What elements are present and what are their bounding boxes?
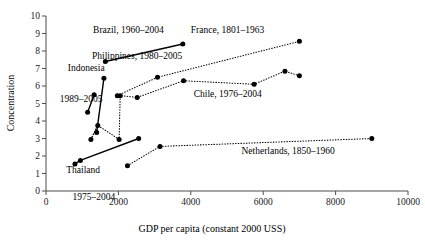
data-point xyxy=(78,158,83,163)
x-axis-title: GDP per capita (constant 2000 USS) xyxy=(138,223,285,235)
data-point xyxy=(88,137,93,142)
series-label: Chile, 1976–2004 xyxy=(194,89,262,99)
chart-figure: 0123456789100200040006000800010000 Brazi… xyxy=(0,0,425,240)
data-point xyxy=(135,95,140,100)
y-tick-label: 5 xyxy=(35,99,40,109)
data-point xyxy=(158,144,163,149)
data-point xyxy=(118,93,123,98)
y-tick-label: 3 xyxy=(35,134,40,144)
x-tick-label: 4000 xyxy=(181,197,200,207)
x-tick-label: 0 xyxy=(44,197,49,207)
data-point xyxy=(136,136,141,141)
y-tick-label: 2 xyxy=(35,151,40,161)
y-tick-label: 6 xyxy=(35,81,40,91)
data-point xyxy=(155,75,160,80)
data-point xyxy=(181,78,186,83)
series-label: Thailand xyxy=(66,165,100,175)
data-point xyxy=(282,69,287,74)
y-tick-label: 1 xyxy=(35,169,40,179)
series-chile-1976-2004 xyxy=(88,69,302,142)
data-point xyxy=(297,73,302,78)
y-tick-label: 7 xyxy=(35,64,40,74)
x-tick-label: 8000 xyxy=(326,197,345,207)
thailand-years: 1975–2004 xyxy=(72,192,115,202)
data-point xyxy=(95,123,100,128)
series-label: Netherlands, 1850–1960 xyxy=(241,146,335,156)
data-point xyxy=(117,137,122,142)
data-point xyxy=(180,42,185,47)
series-label: Brazil, 1960–2004 xyxy=(93,25,164,35)
scatter-plot: 0123456789100200040006000800010000 Brazi… xyxy=(0,0,425,240)
indonesia-years: 1989–2005 xyxy=(60,94,103,104)
series-labels: Brazil, 1960–2004France, 1801–1963Philip… xyxy=(66,25,335,175)
series-label: Indonesia xyxy=(68,63,106,73)
y-tick-label: 4 xyxy=(35,116,40,126)
data-point xyxy=(125,163,130,168)
data-point xyxy=(252,82,257,87)
series-line xyxy=(75,139,139,164)
data-point xyxy=(85,110,90,115)
y-tick-label: 0 xyxy=(35,186,40,196)
x-tick-label: 6000 xyxy=(254,197,273,207)
series-label: Philippines, 1980–2005 xyxy=(92,51,183,61)
y-tick-label: 8 xyxy=(35,46,40,56)
data-point xyxy=(369,136,374,141)
series-line xyxy=(117,41,299,95)
y-axis-title: Concentration xyxy=(5,75,16,132)
data-point xyxy=(297,39,302,44)
series-line xyxy=(91,71,300,139)
series-thailand-1975-2004 xyxy=(72,136,141,166)
y-tick-label: 10 xyxy=(31,11,41,21)
data-point xyxy=(101,76,106,81)
series-label: France, 1801–1963 xyxy=(191,25,265,35)
x-tick-label: 10000 xyxy=(396,197,420,207)
data-point xyxy=(94,130,99,135)
y-tick-label: 9 xyxy=(35,29,40,39)
